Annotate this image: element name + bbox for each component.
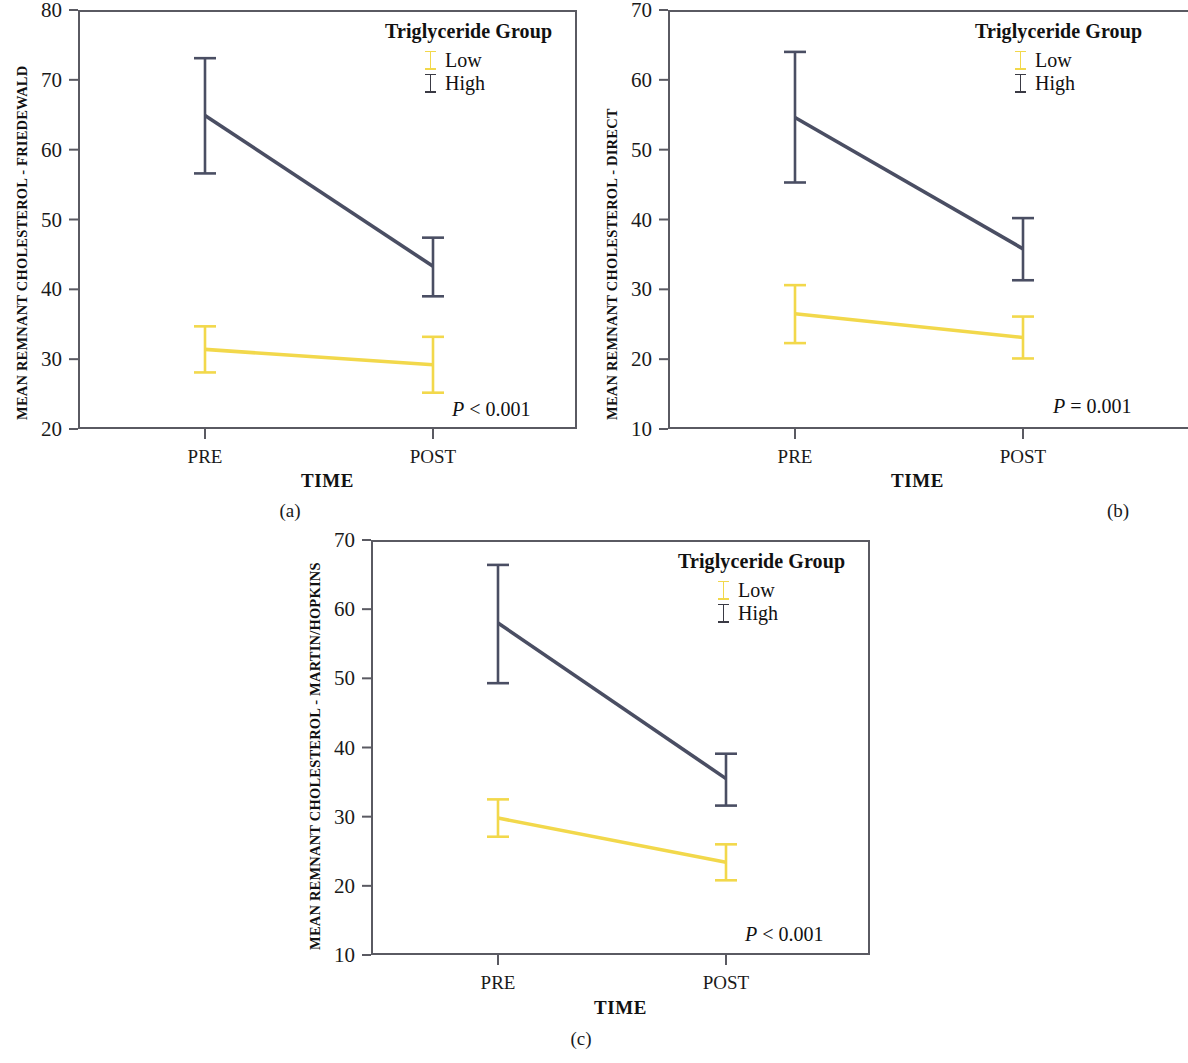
y-tick-label: 70	[20, 70, 62, 91]
panel-b-legend-title: Triglyceride Group	[975, 20, 1142, 43]
y-tick-label: 80	[20, 0, 62, 21]
x-tick-label: POST	[666, 973, 786, 992]
x-tick-label: POST	[963, 447, 1083, 466]
legend-label-high: High	[738, 603, 778, 623]
legend-label-high: High	[445, 73, 485, 93]
panel-c-x-axis-title: TIME	[371, 997, 870, 1019]
panel-a-caption: (a)	[240, 500, 340, 522]
legend-label-high: High	[1035, 73, 1075, 93]
panel-c-pvalue: P < 0.001	[745, 923, 824, 946]
pvalue-value: < 0.001	[757, 923, 823, 945]
error-bar-icon	[718, 581, 729, 600]
legend-label-low: Low	[738, 580, 775, 600]
y-tick-label: 30	[610, 279, 652, 300]
pvalue-value: = 0.001	[1065, 395, 1131, 417]
legend-item-low[interactable]: Low	[1015, 50, 1142, 70]
error-bar-icon	[425, 51, 436, 70]
y-tick-label: 10	[313, 945, 355, 966]
legend-label-low: Low	[445, 50, 482, 70]
y-tick-label: 70	[610, 0, 652, 21]
pvalue-symbol: P	[745, 923, 757, 945]
x-tick-label: PRE	[735, 447, 855, 466]
pvalue-symbol: P	[452, 398, 464, 420]
error-bar-icon	[718, 604, 729, 623]
panel-b: MEAN REMNANT CHOLESTEROL - DIRECT Trigly…	[590, 0, 1167, 520]
y-tick-label: 60	[313, 599, 355, 620]
error-bar-icon	[1015, 74, 1026, 93]
panel-c-legend: Triglyceride Group Low High	[678, 550, 845, 623]
y-tick-label: 50	[313, 668, 355, 689]
y-tick-label: 60	[610, 70, 652, 91]
panel-b-caption: (b)	[1068, 500, 1168, 522]
y-tick-label: 10	[610, 419, 652, 440]
panel-c: MEAN REMNANT CHOLESTEROL - MARTIN/HOPKIN…	[293, 520, 893, 1063]
panel-c-caption: (c)	[531, 1028, 631, 1050]
y-tick-label: 30	[20, 349, 62, 370]
y-tick-label: 40	[610, 210, 652, 231]
panel-b-pvalue: P = 0.001	[1053, 395, 1132, 418]
legend-item-low[interactable]: Low	[425, 50, 552, 70]
x-tick-label: PRE	[145, 447, 265, 466]
y-tick-label: 20	[20, 419, 62, 440]
error-bar-icon	[425, 74, 436, 93]
pvalue-symbol: P	[1053, 395, 1065, 417]
error-bar-icon	[1015, 51, 1026, 70]
y-tick-label: 40	[313, 738, 355, 759]
panel-b-legend: Triglyceride Group Low High	[975, 20, 1142, 93]
panel-a-pvalue: P < 0.001	[452, 398, 531, 421]
panel-a-x-axis-title: TIME	[78, 470, 577, 492]
y-tick-label: 70	[313, 530, 355, 551]
x-tick-label: PRE	[438, 973, 558, 992]
panel-a: MEAN REMNANT CHOLESTEROL - FRIEDEWALD Tr…	[0, 0, 590, 520]
y-tick-label: 30	[313, 807, 355, 828]
panel-a-legend-title: Triglyceride Group	[385, 20, 552, 43]
y-tick-label: 20	[313, 876, 355, 897]
legend-item-high[interactable]: High	[425, 73, 552, 93]
legend-label-low: Low	[1035, 50, 1072, 70]
legend-item-low[interactable]: Low	[718, 580, 845, 600]
panel-a-legend: Triglyceride Group Low High	[385, 20, 552, 93]
pvalue-value: < 0.001	[464, 398, 530, 420]
y-tick-label: 60	[20, 140, 62, 161]
panel-c-legend-title: Triglyceride Group	[678, 550, 845, 573]
y-tick-label: 40	[20, 279, 62, 300]
legend-item-high[interactable]: High	[1015, 73, 1142, 93]
y-tick-label: 50	[20, 210, 62, 231]
y-tick-label: 20	[610, 349, 652, 370]
panel-b-x-axis-title: TIME	[668, 470, 1167, 492]
legend-item-high[interactable]: High	[718, 603, 845, 623]
y-tick-label: 50	[610, 140, 652, 161]
x-tick-label: POST	[373, 447, 493, 466]
